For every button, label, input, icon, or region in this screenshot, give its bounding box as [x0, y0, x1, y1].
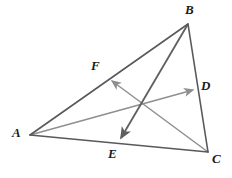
side-ac [30, 135, 208, 152]
cevian-c-to-f [112, 81, 208, 152]
vertex-label-a: A [12, 126, 21, 139]
point-label-d: D [201, 79, 210, 92]
cevian-a-to-d [30, 90, 193, 135]
cevian-b-to-e [121, 24, 188, 138]
cevian-group [30, 24, 208, 152]
vertex-label-c: C [212, 152, 221, 165]
point-label-e: E [108, 147, 117, 160]
geometry-figure: A B C F D E [0, 0, 232, 178]
point-label-f: F [91, 59, 100, 72]
side-ab [30, 24, 188, 135]
vertex-label-b: B [185, 3, 194, 16]
